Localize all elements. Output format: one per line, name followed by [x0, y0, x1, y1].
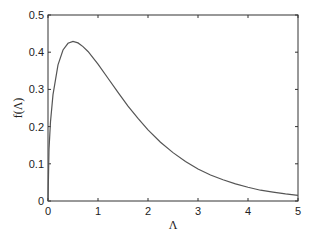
- x-tick-label: 0: [45, 205, 51, 217]
- plot-area: [48, 15, 298, 201]
- y-axis-label: f(Λ): [11, 98, 25, 119]
- x-tick-label: 5: [295, 205, 301, 217]
- x-tick-label: 3: [195, 205, 201, 217]
- y-tick-label: 0.2: [29, 121, 44, 133]
- y-tick-label: 0.5: [29, 9, 44, 21]
- x-tick-labels: 012345: [45, 205, 301, 217]
- y-tick-label: 0.4: [29, 46, 44, 58]
- y-tick-label: 0: [38, 195, 44, 207]
- x-axis-label: Λ: [169, 218, 178, 232]
- x-tick-label: 2: [145, 205, 151, 217]
- x-tick-label: 1: [95, 205, 101, 217]
- x-tick-label: 4: [245, 205, 251, 217]
- axes-box: [48, 15, 298, 201]
- y-tick-label: 0.1: [29, 158, 44, 170]
- y-tick-labels: 00.10.20.30.40.5: [29, 9, 44, 207]
- y-tick-label: 0.3: [29, 83, 44, 95]
- line-chart: 012345 00.10.20.30.40.5 Λ f(Λ): [0, 0, 316, 242]
